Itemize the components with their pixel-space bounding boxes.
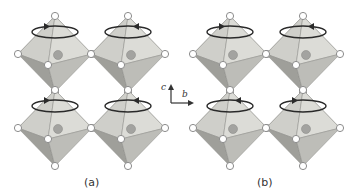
oxygen-atom	[124, 86, 131, 93]
oxygen-atom	[87, 124, 94, 131]
axis-label-c: c	[161, 82, 166, 92]
central-atom	[229, 51, 238, 60]
oxygen-atom	[124, 162, 131, 169]
oxygen-atom	[262, 124, 269, 131]
octahedron	[14, 12, 95, 95]
oxygen-atom	[336, 124, 343, 131]
oxygen-atom	[299, 86, 306, 93]
oxygen-atom	[189, 124, 196, 131]
oxygen-atom	[14, 124, 21, 131]
octahedral-tilt-figure: (a) (b) c b	[0, 0, 354, 196]
oxygen-atom	[14, 50, 21, 57]
panel-b-octahedra	[189, 12, 343, 169]
oxygen-atom	[51, 86, 58, 93]
axis-label-b: b	[182, 89, 188, 99]
oxygen-atom	[299, 12, 306, 19]
oxygen-atom	[226, 162, 233, 169]
oxygen-atom	[299, 162, 306, 169]
figure-canvas	[0, 0, 354, 196]
oxygen-atom	[226, 12, 233, 19]
c-axis-arrow-icon	[168, 84, 174, 90]
panel-label-a: (a)	[84, 176, 99, 189]
octahedron	[262, 12, 343, 95]
central-atom	[127, 125, 136, 134]
octahedron	[262, 86, 343, 169]
oxygen-atom	[189, 50, 196, 57]
panel-a-octahedra	[14, 12, 168, 169]
oxygen-atom	[117, 61, 124, 68]
oxygen-atom	[44, 135, 51, 142]
oxygen-atom	[336, 50, 343, 57]
octahedron	[14, 86, 95, 169]
oxygen-atom	[262, 50, 269, 57]
oxygen-atom	[292, 61, 299, 68]
panel-label-b: (b)	[257, 176, 273, 189]
oxygen-atom	[117, 135, 124, 142]
axis-indicator	[168, 84, 194, 106]
b-axis-arrow-icon	[188, 100, 194, 106]
oxygen-atom	[161, 124, 168, 131]
central-atom	[229, 125, 238, 134]
oxygen-atom	[219, 61, 226, 68]
oxygen-atom	[87, 50, 94, 57]
central-atom	[54, 125, 63, 134]
oxygen-atom	[219, 135, 226, 142]
octahedron	[189, 86, 270, 169]
oxygen-atom	[51, 162, 58, 169]
oxygen-atom	[226, 86, 233, 93]
central-atom	[54, 51, 63, 60]
octahedron	[87, 86, 168, 169]
oxygen-atom	[292, 135, 299, 142]
oxygen-atom	[51, 12, 58, 19]
oxygen-atom	[44, 61, 51, 68]
oxygen-atom	[124, 12, 131, 19]
central-atom	[302, 125, 311, 134]
central-atom	[302, 51, 311, 60]
octahedron	[87, 12, 168, 95]
octahedron	[189, 12, 270, 95]
central-atom	[127, 51, 136, 60]
oxygen-atom	[161, 50, 168, 57]
